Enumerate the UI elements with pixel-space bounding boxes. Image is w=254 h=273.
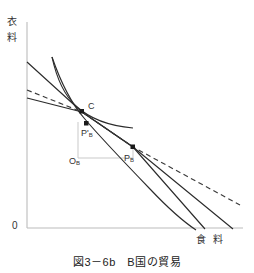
point-label-pb-prime: P'B [81,128,93,138]
y-axis-label: 衣 料 [4,14,20,46]
production-possibility-frontier-curve [52,57,196,230]
point-label-pb: PB [124,153,134,163]
x-axis-label: 食 料 [196,231,225,246]
marker-point-c [80,109,85,114]
autarky-price-line [27,98,205,229]
indifference-curve [52,57,133,128]
point-label-ob: OB [69,156,80,166]
point-label-pb-prime-main: P' [81,128,89,138]
point-label-ob-sub: B [76,160,80,166]
marker-point-pb-prime [84,121,89,126]
world-price-line [27,62,233,229]
point-label-pb-prime-sub: B [89,132,93,138]
point-label-pb-sub: B [130,157,134,163]
marker-point-pb [131,145,136,150]
figure-caption: 図3－6b B国の貿易 [0,253,254,269]
point-label-ob-main: O [69,156,76,166]
origin-label: 0 [12,220,18,231]
point-label-c: C [88,101,95,111]
figure-container: 衣 料 食 料 0 C P'B OB PB 図3－6b B国の貿易 [0,0,254,273]
